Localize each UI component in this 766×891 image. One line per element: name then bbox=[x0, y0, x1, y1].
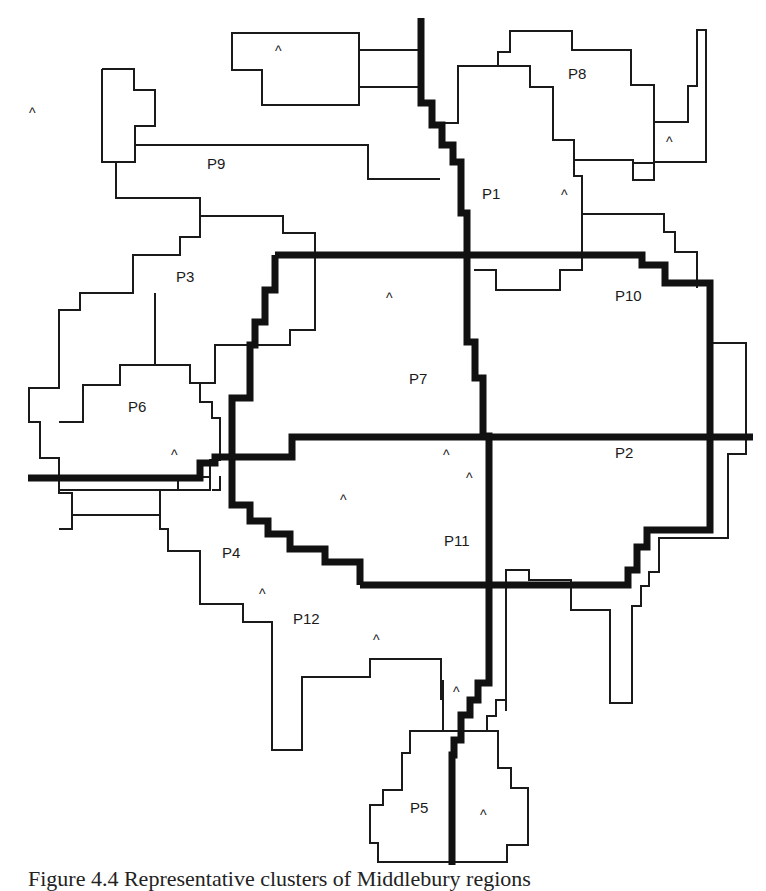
outline-p8 bbox=[498, 30, 706, 180]
caret-marker-icon: ^ bbox=[561, 187, 568, 203]
label-p10: P10 bbox=[615, 287, 642, 304]
partition-top-boundary bbox=[275, 255, 710, 436]
caret-marker-icon: ^ bbox=[386, 290, 393, 306]
label-p1: P1 bbox=[482, 185, 500, 202]
caret-marker-icon: ^ bbox=[171, 447, 178, 463]
label-p9: P9 bbox=[207, 155, 225, 172]
outline-p1 bbox=[440, 66, 582, 250]
label-p11: P11 bbox=[444, 532, 470, 549]
label-p6: P6 bbox=[128, 398, 146, 415]
region-outlines bbox=[29, 30, 746, 862]
partition-horizontal-middle bbox=[28, 437, 753, 478]
outline-p9-left bbox=[102, 69, 135, 162]
partition-left-boundary bbox=[232, 255, 360, 585]
caret-marker-icon: ^ bbox=[275, 43, 282, 59]
outline-p4 bbox=[59, 490, 441, 750]
caret-marker-icon: ^ bbox=[480, 807, 487, 823]
partition-vertical-north bbox=[421, 18, 467, 253]
partition-vertical-central bbox=[452, 253, 489, 865]
caret-marker-icon: ^ bbox=[259, 586, 266, 602]
label-p3: P3 bbox=[176, 268, 194, 285]
caret-marker-icon: ^ bbox=[466, 470, 473, 486]
outline-p9 bbox=[102, 69, 440, 179]
caret-marker-icon: ^ bbox=[443, 447, 450, 463]
caret-marker-icon: ^ bbox=[29, 105, 36, 121]
figure-caption: Figure 4.4 Representative clusters of Mi… bbox=[28, 868, 531, 890]
outline-p10-right bbox=[582, 214, 697, 288]
label-p12: P12 bbox=[293, 610, 320, 627]
label-p4: P4 bbox=[222, 544, 240, 561]
label-p5: P5 bbox=[410, 799, 428, 816]
partition-bottom-boundary bbox=[360, 436, 710, 585]
label-p8: P8 bbox=[568, 65, 586, 82]
caret-marker-icon: ^ bbox=[666, 134, 673, 150]
label-p7: P7 bbox=[409, 370, 427, 387]
outline-top-box bbox=[232, 33, 359, 105]
caret-marker-icon: ^ bbox=[373, 632, 380, 648]
outline-top-connector bbox=[359, 50, 418, 87]
caret-marker-icon: ^ bbox=[453, 684, 460, 700]
caret-marker-icon: ^ bbox=[340, 492, 347, 508]
label-p2: P2 bbox=[615, 444, 633, 461]
